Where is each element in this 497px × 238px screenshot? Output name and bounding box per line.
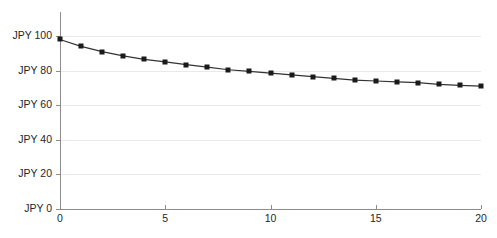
data-point-marker: [415, 80, 420, 85]
data-point-marker: [436, 82, 441, 87]
data-point-marker: [58, 37, 63, 42]
data-point-marker: [226, 67, 231, 72]
data-point-marker: [479, 84, 484, 89]
data-point-marker: [121, 53, 126, 58]
data-point-marker: [205, 65, 210, 70]
data-point-marker: [457, 83, 462, 88]
data-point-marker: [79, 44, 84, 49]
data-point-marker: [247, 69, 252, 74]
data-point-marker: [331, 76, 336, 81]
data-point-marker: [352, 78, 357, 83]
series-line: [0, 0, 497, 238]
data-point-marker: [394, 79, 399, 84]
data-point-marker: [310, 74, 315, 79]
data-point-marker: [373, 78, 378, 83]
data-point-marker: [289, 72, 294, 77]
chart-container: JPY 0JPY 20JPY 40JPY 60JPY 80JPY 100 051…: [0, 0, 497, 238]
data-point-marker: [163, 59, 168, 64]
data-point-marker: [142, 57, 147, 62]
data-point-marker: [184, 62, 189, 67]
data-point-marker: [268, 71, 273, 76]
data-point-marker: [100, 49, 105, 54]
